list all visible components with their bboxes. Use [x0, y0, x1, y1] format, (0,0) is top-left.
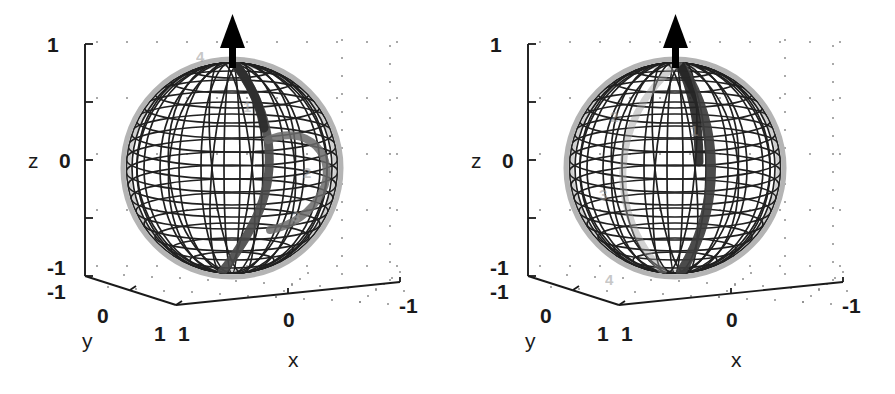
z-tick-label-1: 1 [490, 33, 502, 56]
y-tick-label-0: 0 [97, 304, 109, 327]
y-axis-ticks-right [573, 286, 625, 305]
x-tick-label-neg1: -1 [842, 294, 861, 317]
z-tick-label-0: 0 [502, 149, 514, 172]
z-axis-ticks-left [85, 44, 93, 276]
figure-canvas: 1 2 3 4 [0, 0, 895, 394]
z-tick-label-1: 1 [47, 33, 59, 56]
y-axis-ticks-left [130, 286, 182, 305]
y-tick-label-neg1: -1 [490, 280, 509, 303]
x-axis-ticks-right [731, 277, 843, 293]
x-tick-label-1: 1 [621, 322, 633, 345]
right-panel: 1 2 3 4 [447, 0, 894, 394]
z-axis-ticks-right [528, 44, 536, 276]
z-axis-label: z [28, 149, 39, 172]
annotation-1: 1 [243, 98, 251, 115]
annotation-1: 1 [690, 122, 698, 139]
annotation-4: 4 [196, 48, 205, 65]
annotation-2: 2 [610, 108, 618, 125]
annotation-4: 4 [605, 271, 614, 288]
z-axis-label: z [471, 149, 482, 172]
y-tick-label-neg1: -1 [47, 280, 66, 303]
x-tick-label-0: 0 [726, 308, 738, 331]
x-tick-label-1: 1 [178, 322, 190, 345]
right-panel-plot: 1 2 3 4 [447, 0, 894, 394]
x-tick-label-neg1: -1 [399, 294, 418, 317]
z-tick-label-0: 0 [59, 149, 71, 172]
annotation-3: 3 [599, 186, 607, 203]
z-tick-label-neg1: -1 [47, 256, 66, 279]
left-panel-plot: 1 2 3 4 [0, 0, 447, 394]
y-axis-label: y [82, 329, 93, 352]
y-tick-label-1: 1 [154, 322, 166, 345]
x-axis-label: x [288, 348, 299, 371]
y-tick-label-0: 0 [540, 304, 552, 327]
left-panel: 1 2 3 4 [0, 0, 447, 394]
x-axis-label: x [731, 348, 742, 371]
annotation-3: 3 [292, 208, 300, 225]
x-tick-label-0: 0 [283, 308, 295, 331]
x-axis-ticks-left [288, 277, 400, 293]
y-axis-label: y [525, 329, 536, 352]
z-tick-label-neg1: -1 [490, 256, 509, 279]
y-tick-label-1: 1 [597, 322, 609, 345]
annotation-2: 2 [303, 164, 311, 181]
